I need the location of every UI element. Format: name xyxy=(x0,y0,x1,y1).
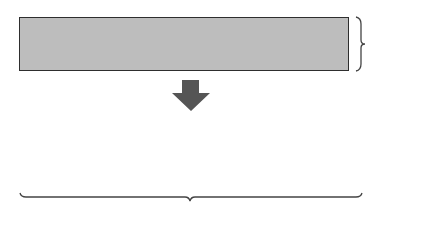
annotations xyxy=(0,0,439,228)
right-brace-icon xyxy=(356,17,365,71)
bottom-brace-icon xyxy=(20,193,362,201)
down-arrow-icon xyxy=(172,80,210,111)
